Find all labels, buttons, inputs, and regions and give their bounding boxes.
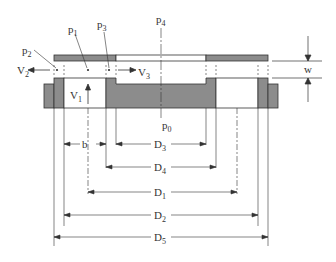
d1-label: D1 <box>154 186 166 201</box>
w-dimension: w <box>272 36 322 102</box>
d2-label: D2 <box>154 209 166 224</box>
b-label: b <box>82 138 88 150</box>
p0-label: p0 <box>162 119 172 134</box>
p2-label: p2 <box>22 44 32 59</box>
thrust-bearing-cross-section-diagram: w <box>0 0 336 262</box>
v2-label: V2 <box>17 64 29 79</box>
vertical-extension-lines <box>54 108 268 246</box>
d4-label: D4 <box>154 161 166 176</box>
w-label: w <box>304 63 312 75</box>
p1-label: p1 <box>68 23 78 38</box>
v3-label: V3 <box>138 66 150 81</box>
leader-lines <box>34 32 109 68</box>
labels: p4 p1 p3 p2 V2 V3 V1 p0 b D3 D4 D1 D2 D5 <box>17 13 172 246</box>
d3-label: D3 <box>154 138 166 153</box>
d5-label: D5 <box>154 231 166 246</box>
p4-label: p4 <box>156 13 166 28</box>
arrow-right-icon <box>130 68 136 73</box>
p3-label: p3 <box>97 18 107 33</box>
